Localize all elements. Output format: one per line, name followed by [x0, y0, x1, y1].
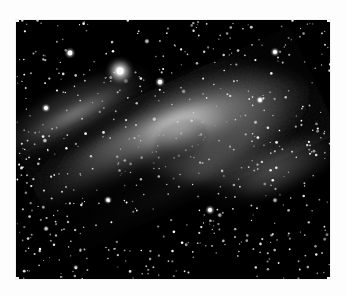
page-root: [0, 0, 346, 296]
secondary-star-0: [68, 51, 73, 56]
astronomy-photo: [16, 20, 330, 279]
secondary-star-1: [158, 80, 162, 84]
secondary-star-5: [208, 208, 212, 212]
secondary-star-3: [44, 106, 48, 110]
secondary-star-4: [258, 98, 262, 102]
bright-foreground-star: [104, 55, 136, 87]
secondary-star-6: [106, 198, 110, 202]
galaxy-render-canvas: [16, 20, 330, 279]
secondary-star-2: [273, 50, 277, 54]
